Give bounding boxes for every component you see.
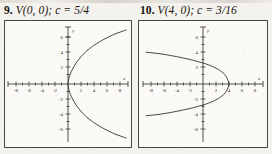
svg-text:8: 8 bbox=[254, 88, 257, 93]
exercise-vertex-10: V(4, 0); bbox=[158, 4, 195, 16]
svg-text:-8: -8 bbox=[14, 88, 19, 93]
svg-text:-4: -4 bbox=[175, 88, 180, 93]
textbook-answer-figure-page: 9. V(0, 0); c = 5/4 bbox=[0, 0, 272, 154]
svg-text:-4: -4 bbox=[40, 88, 45, 93]
x-axis-label-10: x bbox=[257, 76, 261, 81]
svg-text:-8: -8 bbox=[149, 88, 154, 93]
parabola-curve-10-upper bbox=[146, 52, 229, 84]
x-axis-label-9: x bbox=[122, 76, 126, 81]
exercise-constant-10: c = 3/16 bbox=[197, 4, 237, 16]
svg-text:6: 6 bbox=[196, 35, 199, 40]
svg-text:-2: -2 bbox=[53, 88, 58, 93]
svg-text:-2: -2 bbox=[194, 97, 199, 102]
svg-text:-6: -6 bbox=[27, 88, 32, 93]
svg-text:6: 6 bbox=[106, 88, 109, 93]
graph-box-9: -8 -6 -4 -2 2 4 6 8 6 4 2 -2 -4 -6 bbox=[4, 20, 132, 148]
svg-text:4: 4 bbox=[196, 50, 199, 55]
svg-text:-4: -4 bbox=[194, 112, 199, 117]
graph-svg-9: -8 -6 -4 -2 2 4 6 8 6 4 2 -2 -4 -6 bbox=[5, 21, 131, 147]
svg-text:-6: -6 bbox=[162, 88, 167, 93]
exercise-panel-10: 10. V(4, 0); c = 3/16 bbox=[136, 0, 272, 154]
graph-svg-10: -8 -6 -4 -2 2 4 6 8 6 4 2 -2 -4 -6 bbox=[139, 21, 267, 147]
svg-text:2: 2 bbox=[80, 88, 83, 93]
y-axis-label-9: y bbox=[71, 28, 75, 33]
svg-text:8: 8 bbox=[119, 88, 122, 93]
svg-text:-2: -2 bbox=[188, 88, 193, 93]
svg-text:4: 4 bbox=[228, 88, 231, 93]
exercise-constant-9: c = 5/4 bbox=[55, 4, 89, 16]
svg-text:-6: -6 bbox=[194, 127, 199, 132]
svg-text:2: 2 bbox=[196, 65, 199, 70]
svg-text:-2: -2 bbox=[59, 97, 64, 102]
svg-text:-4: -4 bbox=[59, 112, 64, 117]
exercise-number-9: 9. bbox=[4, 4, 13, 16]
svg-text:4: 4 bbox=[61, 50, 64, 55]
svg-text:6: 6 bbox=[61, 35, 64, 40]
parabola-curve-9 bbox=[68, 30, 126, 84]
exercise-caption-10: 10. V(4, 0); c = 3/16 bbox=[140, 3, 237, 18]
svg-text:6: 6 bbox=[241, 88, 244, 93]
exercise-number-10: 10. bbox=[140, 4, 155, 16]
svg-text:4: 4 bbox=[93, 88, 96, 93]
svg-text:-6: -6 bbox=[59, 127, 64, 132]
exercise-vertex-9: V(0, 0); bbox=[16, 4, 53, 16]
y-axis-label-10: y bbox=[206, 28, 210, 33]
parabola-curve-9-lower bbox=[68, 84, 126, 138]
exercise-caption-9: 9. V(0, 0); c = 5/4 bbox=[4, 3, 89, 18]
graph-box-10: -8 -6 -4 -2 2 4 6 8 6 4 2 -2 -4 -6 bbox=[138, 20, 268, 148]
exercise-panel-9: 9. V(0, 0); c = 5/4 bbox=[0, 0, 136, 154]
svg-text:2: 2 bbox=[61, 65, 64, 70]
svg-text:2: 2 bbox=[215, 88, 218, 93]
